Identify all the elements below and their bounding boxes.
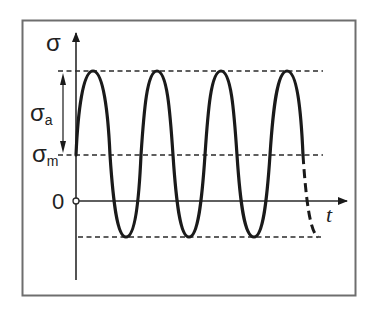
amplitude-arrow-top-icon (60, 73, 66, 85)
stress-waveform (76, 71, 303, 237)
origin-label: 0 (52, 189, 64, 214)
diagram-frame (23, 21, 356, 296)
stress-waveform-continuation (303, 155, 318, 237)
mean-label: σm (32, 140, 58, 169)
y-axis-label: σ (46, 29, 61, 56)
amplitude-arrow-bottom-icon (60, 141, 66, 153)
amplitude-label: σa (30, 99, 53, 128)
origin-marker (73, 198, 79, 204)
x-axis-label: t (326, 202, 333, 227)
stress-time-diagram: σ t σa σm 0 (0, 0, 374, 314)
